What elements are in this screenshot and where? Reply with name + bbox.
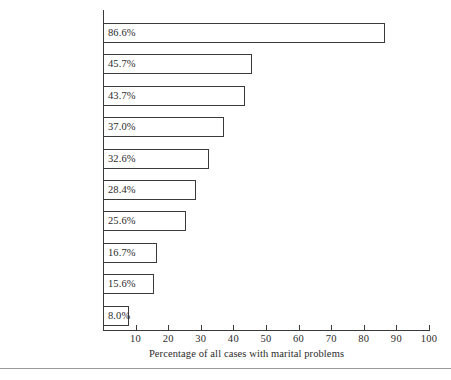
plot-area: Communication86.6%Children45.7%Sex43.7%M… [103, 10, 429, 330]
x-axis-tick-label: 100 [409, 333, 449, 344]
x-axis-tick [136, 325, 137, 330]
bar-value-label: 32.6% [108, 149, 136, 169]
bar-value-label: 28.4% [108, 180, 136, 200]
bar-value-label: 37.0% [108, 117, 136, 137]
x-axis-title: Percentage of all cases with marital pro… [0, 348, 451, 359]
bar-row: Communication86.6% [103, 18, 429, 49]
bar-row: Leisure32.6% [103, 144, 429, 175]
x-axis-tick [201, 325, 202, 330]
x-axis-tick [364, 325, 365, 330]
x-axis-tick [299, 325, 300, 330]
bar-value-label: 8.0% [108, 306, 130, 326]
x-axis-tick [331, 325, 332, 330]
bar-value-label: 86.6% [108, 23, 136, 43]
bar [103, 23, 385, 43]
bar-row: Physical abuse15.6% [103, 269, 429, 300]
x-axis-tick [233, 325, 234, 330]
bar-row: Money37.0% [103, 112, 429, 143]
x-axis-tick [396, 325, 397, 330]
footer-rule [0, 368, 451, 369]
x-axis-tick [168, 325, 169, 330]
bar-row: Sex43.7% [103, 81, 429, 112]
x-axis-tick [266, 325, 267, 330]
bar-value-label: 15.6% [108, 274, 136, 294]
bar-value-label: 45.7% [108, 54, 136, 74]
bar-value-label: 43.7% [108, 86, 136, 106]
bar-row: Housekeeping16.7% [103, 238, 429, 269]
bar-row: Infidelity25.6% [103, 206, 429, 237]
bar-row: Children45.7% [103, 49, 429, 80]
bar-value-label: 16.7% [108, 243, 136, 263]
bar-row: Relatives28.4% [103, 175, 429, 206]
bar-value-label: 25.6% [108, 211, 136, 231]
x-axis-tick [429, 325, 430, 330]
bar-chart-figure: Communication86.6%Children45.7%Sex43.7%M… [0, 0, 451, 380]
